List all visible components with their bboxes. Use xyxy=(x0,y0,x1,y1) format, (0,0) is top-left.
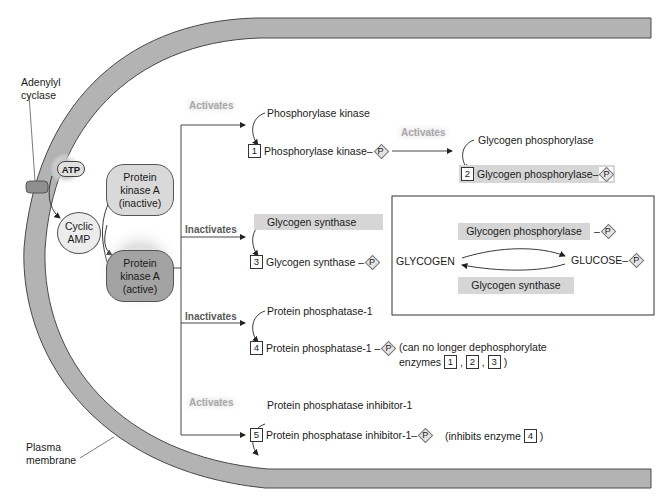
enzyme-number-2: 2 xyxy=(461,167,474,181)
branch-4-product: 4 Protein phosphatase-1 – P xyxy=(250,341,395,355)
inset-top-phospho: –P xyxy=(594,224,615,238)
branch-1-action: Activates xyxy=(189,100,233,111)
branch-5-product: 5 Protein phosphatase inhibitor-1– P xyxy=(250,428,432,442)
enzyme-number-3: 3 xyxy=(250,255,263,269)
branch-4-note-line2: enzymes 1, 2, 3) xyxy=(399,355,507,369)
phosphate-icon: P xyxy=(599,167,613,181)
adenylyl-cyclase-label: Adenylyl cyclase xyxy=(21,76,61,102)
branch-5-action: Activates xyxy=(189,397,233,408)
branch-5-note: (inhibits enzyme 4) xyxy=(445,429,543,443)
enzyme-number-4: 4 xyxy=(250,341,263,355)
branch-3-product: 3 Glycogen synthase – P xyxy=(250,255,379,269)
inset-glycogen: GLYCOGEN xyxy=(396,255,455,267)
phosphate-icon: P xyxy=(629,253,643,267)
branch-1-substrate: Phosphorylase kinase xyxy=(267,107,370,119)
phosphate-icon: P xyxy=(365,255,379,269)
plasma-membrane-label: Plasma membrane xyxy=(26,441,76,467)
secondary-substrate: Glycogen phosphorylase xyxy=(478,134,594,146)
protein-kinase-a-active: Proteinkinase A(active) xyxy=(106,250,174,302)
phosphate-icon: P xyxy=(374,144,388,158)
branch-4-note-line1: (can no longer dephosphorylate xyxy=(399,341,547,353)
phosphate-icon: P xyxy=(601,224,615,238)
branch-1-product: 1 Phosphorylase kinase– P xyxy=(248,144,388,158)
enzyme-number-1: 1 xyxy=(248,144,261,158)
enzyme-number-5: 5 xyxy=(250,428,263,442)
cyclic-amp-node: CyclicAMP xyxy=(57,212,101,254)
inset-top-enzyme: Glycogen phosphorylase xyxy=(458,223,590,240)
inset-glucose: GLUCOSE– P xyxy=(571,253,643,267)
secondary-product: 2 Glycogen phosphorylase– P xyxy=(459,165,615,183)
protein-kinase-a-inactive: Proteinkinase A(inactive) xyxy=(106,164,174,216)
branch-5-substrate: Protein phosphatase inhibitor-1 xyxy=(267,399,412,411)
branch-4-action: Inactivates xyxy=(185,311,237,322)
branch-4-substrate: Protein phosphatase-1 xyxy=(267,305,373,317)
atp-node: ATP xyxy=(57,161,85,177)
secondary-action: Activates xyxy=(401,127,445,138)
branch-3-action: Inactivates xyxy=(185,224,237,235)
inset-bottom-enzyme: Glycogen synthase xyxy=(458,277,574,294)
phosphate-icon: P xyxy=(418,428,432,442)
branch-3-substrate: Glycogen synthase xyxy=(254,214,383,230)
adenylyl-cyclase-channel xyxy=(26,181,48,193)
phosphate-icon: P xyxy=(381,341,395,355)
